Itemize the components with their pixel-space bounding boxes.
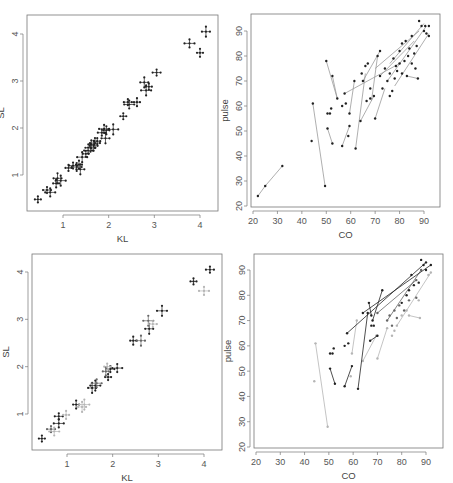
y-tick-label: 4 [10,31,20,36]
plot-frame [251,14,440,207]
data-point [336,97,338,99]
data-point [389,95,391,97]
crosshair-marker [107,123,119,135]
data-point [386,80,388,82]
y-tick-label: 90 [237,265,247,275]
y-tick-label: 2 [10,125,20,130]
y-tick-label: 40 [234,151,244,161]
x-axis: 1234 [60,215,202,230]
y-axis: 2030405060708090 [234,26,247,211]
data-point [373,324,375,326]
data-point [418,299,420,301]
data-point [418,20,420,22]
data-point [408,289,410,291]
data-point [393,77,395,79]
data-point [393,329,395,331]
data-point [404,40,406,42]
crosshair-marker [77,401,87,413]
data-point [370,314,372,316]
data-point [334,383,336,385]
data-point [408,299,410,301]
data-point [325,60,327,62]
crosshair-marker [205,266,215,274]
crosshair-marker [52,172,62,184]
x-tick-label: 80 [395,216,405,226]
data-point [401,302,403,304]
data-point [371,319,373,321]
data-point [427,274,429,276]
data-point [386,327,388,329]
pair-segment [377,280,416,313]
pair-segment [330,369,335,384]
crosshair-marker [119,112,127,120]
data-point [425,269,427,271]
data-point [415,45,417,47]
pair-segment [332,76,337,99]
x-tick-label: 3 [156,459,161,469]
data-point [405,309,407,311]
data-point [341,105,343,107]
y-axis-title: SL [0,346,11,358]
data-point [420,259,422,261]
data-point [347,135,349,137]
y-tick-label: 2 [15,364,25,369]
data-point [369,87,371,89]
data-point [329,112,331,114]
plot-kl-vs-sl-bottom: 1234KL1234SL [0,254,222,483]
data-point [341,145,343,147]
data-point [407,55,409,57]
data-point [313,380,315,382]
y-tick-label: 3 [15,317,25,322]
pair-segment [347,262,426,333]
x-tick-label: 2 [110,459,115,469]
data-layer [257,20,430,197]
data-point [398,50,400,52]
data-point [403,309,405,311]
pair-segment [358,313,368,389]
data-point [331,142,333,144]
data-point [346,332,348,334]
data-point [413,284,415,286]
data-point [376,312,378,314]
crosshair-marker [201,26,211,38]
crosshair-marker [123,99,135,109]
data-point [374,117,376,119]
data-point [333,347,335,349]
x-tick-label: 70 [370,216,380,226]
x-tick-label: 2 [106,220,111,230]
plot-co-vs-pulse-bottom: 2030405060708090CO2030405060708090pulse [222,254,443,481]
data-point [428,25,430,27]
y-tick-label: 90 [234,26,244,36]
x-tick-label: 1 [60,220,65,230]
data-point [381,87,383,89]
x-tick-label: 1 [64,459,69,469]
crosshair-marker [133,97,141,107]
crosshair-marker [89,380,101,392]
data-point [415,279,417,281]
crosshair-marker [44,187,56,197]
data-point [257,195,259,197]
data-point [354,147,356,149]
data-point [368,302,370,304]
data-point [388,314,390,316]
data-point [389,72,391,74]
data-point [410,274,412,276]
crosshair-marker [152,68,162,76]
crosshair-marker [38,435,46,443]
y-axis: 1234 [10,31,23,177]
crosshair-marker [196,48,204,58]
data-point [381,289,383,291]
data-point [391,335,393,337]
x-tick-label: 60 [348,457,358,467]
data-point [386,319,388,321]
data-point [362,312,364,314]
data-point [362,80,364,82]
pair-segment [326,61,337,99]
y-axis: 2030405060708090 [237,265,250,452]
data-point [330,107,332,109]
pair-segment [345,64,400,94]
data-point [365,100,367,102]
pair-segment [265,166,282,186]
data-point [430,271,432,273]
data-point [393,309,395,311]
